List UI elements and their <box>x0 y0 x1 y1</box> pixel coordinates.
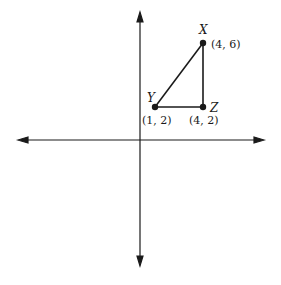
segment-xy <box>155 43 203 107</box>
point-x-dot <box>200 40 206 46</box>
point-y-label: Y <box>147 91 156 105</box>
triangle-xyz <box>155 43 203 107</box>
y-axis <box>137 12 143 266</box>
point-x-label: X <box>198 23 208 37</box>
x-axis-right-arrow-icon <box>254 137 264 143</box>
coordinate-plane: X (4, 6) Y (1, 2) Z (4, 2) <box>0 0 281 285</box>
point-y-coord: (1, 2) <box>142 114 172 127</box>
point-z-dot <box>200 104 206 110</box>
point-z-label: Z <box>209 101 219 115</box>
point-z-coord: (4, 2) <box>189 114 219 127</box>
x-axis-left-arrow-icon <box>18 137 28 143</box>
point-x-coord: (4, 6) <box>211 38 241 51</box>
y-axis-down-arrow-icon <box>137 256 143 266</box>
x-axis <box>18 137 264 143</box>
y-axis-up-arrow-icon <box>137 12 143 22</box>
